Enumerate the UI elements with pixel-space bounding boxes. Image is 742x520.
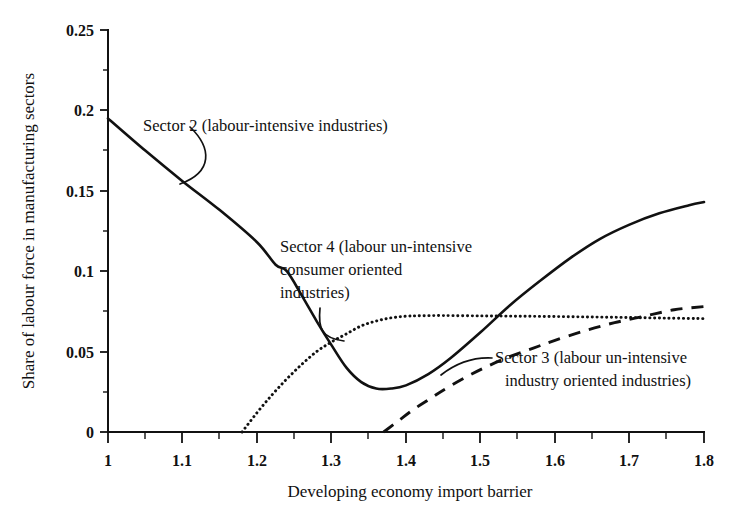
x-tick-label: 1.5 — [470, 452, 490, 469]
y-tick-label: 0.1 — [74, 263, 94, 280]
series-line-sector-3 — [384, 307, 704, 432]
y-tick-label: 0.25 — [66, 22, 94, 39]
x-tick-label: 1.7 — [619, 452, 639, 469]
annotation-line: Sector 2 (labour-intensive industries) — [143, 116, 388, 135]
y-tick-label: 0 — [86, 424, 94, 441]
chart-figure: 0.25 0.2 0.15 0.1 0.05 0 — [0, 0, 742, 520]
annotation-sector-2: Sector 2 (labour-intensive industries) — [143, 116, 388, 135]
leader-line-sector-2 — [180, 127, 206, 184]
annotation-line: industry oriented industries) — [505, 371, 691, 390]
x-axis-major-ticks — [108, 432, 704, 443]
annotation-line: consumer oriented — [280, 260, 403, 279]
x-axis-tick-labels: 1 1.1 1.2 1.3 1.4 1.5 1.6 1.7 1.8 — [104, 452, 714, 469]
y-tick-label: 0.2 — [74, 102, 94, 119]
y-axis-tick-labels: 0.25 0.2 0.15 0.1 0.05 0 — [66, 22, 94, 441]
y-tick-label: 0.15 — [66, 183, 94, 200]
annotation-line: Sector 4 (labour un-intensive — [280, 237, 472, 256]
x-tick-label: 1.4 — [396, 452, 416, 469]
x-tick-label: 1.3 — [321, 452, 341, 469]
chart-canvas: 0.25 0.2 0.15 0.1 0.05 0 — [0, 0, 742, 520]
x-tick-label: 1.6 — [545, 452, 565, 469]
x-axis-title: Developing economy import barrier — [287, 482, 532, 501]
annotation-sector-3: Sector 3 (labour un-intensive industry o… — [495, 348, 691, 390]
annotation-line: Sector 3 (labour un-intensive — [495, 348, 687, 367]
y-axis-title: Share of labour force in manufacturing s… — [19, 73, 38, 389]
x-tick-label: 1.8 — [694, 452, 714, 469]
annotation-sector-4: Sector 4 (labour un-intensive consumer o… — [280, 237, 472, 302]
x-tick-label: 1.2 — [247, 452, 267, 469]
annotation-line: industries) — [280, 283, 350, 302]
x-tick-label: 1.1 — [172, 452, 192, 469]
y-tick-label: 0.05 — [66, 344, 94, 361]
x-tick-label: 1 — [104, 452, 112, 469]
